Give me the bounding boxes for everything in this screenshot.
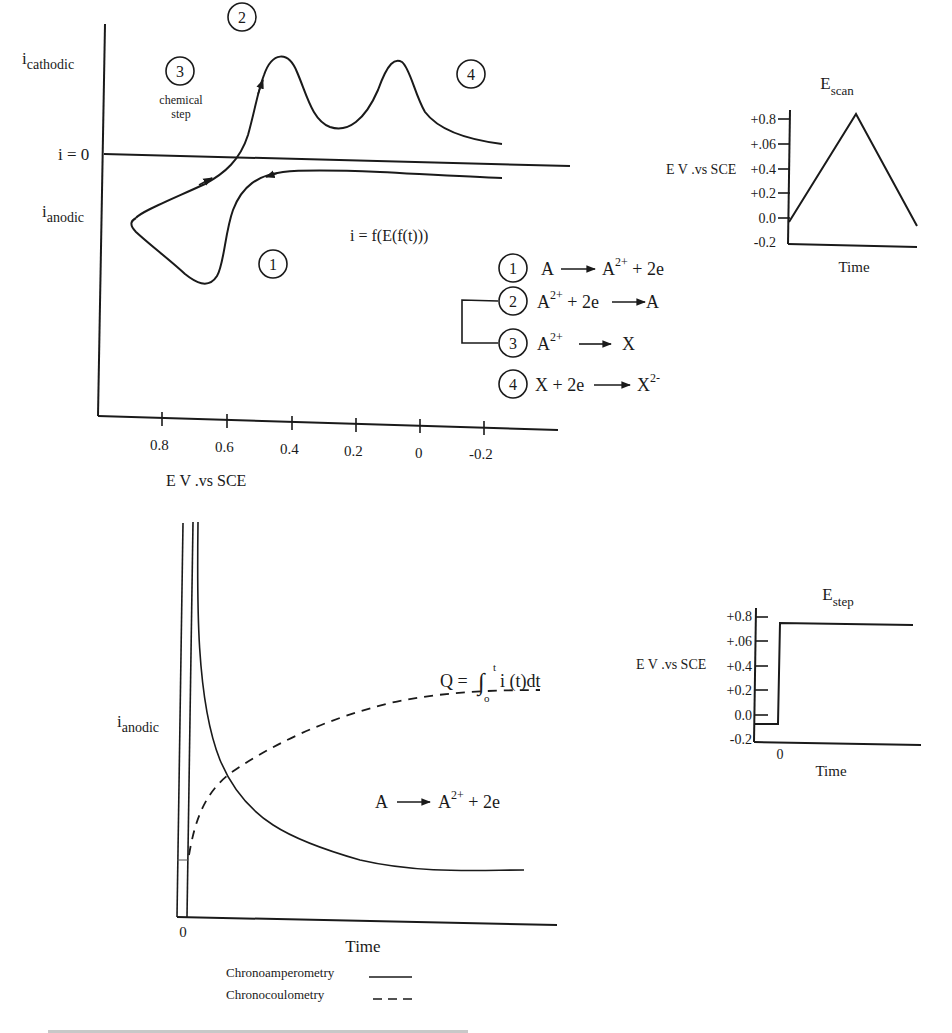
cv-marker-4: 4 — [457, 60, 485, 88]
ca-step-line — [187, 522, 193, 917]
svg-text:1: 1 — [269, 256, 277, 273]
cv-y-label-zero: i = 0 — [58, 145, 89, 164]
svg-text:A: A — [375, 792, 388, 812]
estep-y-tick-label: +0.8 — [727, 609, 752, 624]
escan-triangle-waveform — [789, 114, 917, 226]
reaction-3: 3 A2+ X — [499, 329, 635, 357]
cv-x-tick-label: 0.2 — [344, 443, 363, 459]
cv-marker-1: 1 — [259, 250, 287, 278]
estep-y-axis-label: E V .vs SCE — [636, 657, 706, 672]
escan-y-tick-label: 0.0 — [759, 211, 777, 226]
reaction-4: 4 X + 2e X2- — [499, 370, 660, 398]
charge-equation: Q = ∫ t o i (t)dt — [440, 661, 541, 704]
estep-y-axis — [754, 608, 756, 742]
ca-y-axis — [177, 523, 183, 917]
cv-x-tick-label: 0 — [415, 445, 423, 461]
legend-label-chronocoulometry: Chronocoulometry — [226, 987, 325, 1002]
legend-label-chronoamperometry: Chronoamperometry — [226, 965, 335, 980]
cv-plot: 0.8 0.6 0.4 0.2 0 -0.2 E V .vs SCE icath… — [22, 3, 570, 489]
estep-step-waveform — [755, 623, 913, 724]
estep-x-axis-label: Time — [815, 763, 846, 779]
cv-x-tick-label: 0.6 — [215, 439, 234, 455]
ca-legend: Chronoamperometry Chronocoulometry — [226, 965, 414, 1002]
svg-text:A2+ + 2e: A2+ + 2e — [438, 788, 500, 812]
cv-marker-2: 2 — [228, 3, 256, 31]
cv-arrow-forward-2 — [258, 80, 263, 94]
chemical-step-label: step — [171, 107, 190, 121]
cv-x-tick-label: 0.8 — [150, 437, 169, 453]
escan-y-axis-label: E V .vs SCE — [666, 162, 736, 177]
estep-title: Estep — [822, 585, 853, 609]
svg-text:t: t — [493, 661, 496, 673]
cv-zero-current-line — [104, 154, 570, 166]
svg-text:A2+: A2+ — [537, 330, 563, 354]
cv-x-tick-label: 0.4 — [280, 441, 299, 457]
ca-reaction: A A2+ + 2e — [375, 788, 500, 812]
escan-y-tick-label: +0.2 — [751, 186, 776, 201]
chronoamperometry-curve — [198, 522, 524, 871]
svg-text:i (t)dt: i (t)dt — [500, 671, 541, 692]
estep-y-ticks — [755, 617, 768, 715]
estep-plot: Estep +0.8 +.06 +0.4 +0.2 0.0 -0.2 E V .… — [636, 585, 921, 779]
ca-plot: ianodic 0 Time Q = ∫ t o i (t)dt A A2+ +… — [117, 522, 557, 1002]
cv-function-label: i = f(E(f(t))) — [350, 227, 428, 245]
escan-y-axis — [788, 110, 790, 244]
figure-canvas: 0.8 0.6 0.4 0.2 0 -0.2 E V .vs SCE icath… — [0, 0, 952, 1033]
cv-y-axis — [98, 24, 105, 416]
ca-x-axis — [177, 917, 557, 925]
chemical-step-label: chemical — [159, 93, 203, 107]
svg-text:X + 2e: X + 2e — [535, 375, 584, 395]
cv-x-axis-label: E V .vs SCE — [166, 472, 246, 489]
svg-text:Q =: Q = — [440, 671, 468, 691]
cv-marker-3: 3 — [166, 57, 194, 85]
ca-y-axis-label: ianodic — [117, 712, 159, 735]
svg-text:2: 2 — [238, 9, 246, 26]
reaction-bracket — [462, 300, 498, 343]
estep-y-tick-label: +0.4 — [727, 659, 752, 674]
reaction-1: 1 A A2+ + 2e — [499, 254, 664, 282]
chronocoulometry-curve — [189, 690, 540, 855]
escan-x-axis-label: Time — [838, 259, 869, 275]
svg-text:A: A — [541, 259, 554, 279]
escan-plot: Escan +0.8 +.06 +0.4 +0.2 0.0 -0.2 E V .… — [666, 74, 917, 275]
escan-x-axis — [788, 244, 917, 247]
cv-y-label-cathodic: icathodic — [22, 49, 74, 72]
svg-text:A2+ + 2e: A2+ + 2e — [602, 255, 664, 279]
estep-x-axis — [754, 742, 921, 745]
estep-y-tick-label: -0.2 — [730, 732, 752, 747]
estep-y-tick-label: +0.2 — [727, 683, 752, 698]
svg-text:A: A — [646, 292, 659, 312]
svg-text:1: 1 — [509, 260, 517, 277]
cv-curve-reverse — [131, 171, 502, 284]
cv-x-tick-label: -0.2 — [469, 446, 493, 462]
ca-x-axis-label: Time — [345, 937, 380, 956]
svg-text:o: o — [484, 692, 490, 704]
cv-x-axis — [98, 416, 558, 430]
escan-y-tick-label: +0.4 — [751, 162, 776, 177]
svg-text:4: 4 — [467, 66, 475, 83]
reaction-2: 2 A2+ + 2e A — [499, 287, 659, 315]
escan-y-tick-label: +.06 — [751, 137, 776, 152]
escan-y-tick-label: +0.8 — [751, 112, 776, 127]
reaction-list: 1 A A2+ + 2e 2 A2+ + 2e A 3 A2+ X 4 X + … — [462, 254, 664, 398]
svg-text:3: 3 — [176, 63, 184, 80]
escan-y-tick-label: -0.2 — [754, 235, 776, 250]
ca-x-tick-zero: 0 — [179, 924, 187, 940]
svg-text:A2+ + 2e: A2+ + 2e — [537, 288, 599, 312]
svg-text:X: X — [622, 334, 635, 354]
escan-title: Escan — [820, 74, 854, 98]
svg-text:X2-: X2- — [637, 371, 660, 395]
estep-y-tick-label: 0.0 — [735, 708, 753, 723]
svg-text:4: 4 — [509, 376, 517, 393]
svg-text:3: 3 — [509, 335, 517, 352]
cv-y-label-anodic: ianodic — [42, 202, 84, 225]
estep-y-tick-label: +.06 — [727, 634, 752, 649]
estep-x-tick-zero: 0 — [777, 747, 784, 762]
svg-text:2: 2 — [509, 293, 517, 310]
